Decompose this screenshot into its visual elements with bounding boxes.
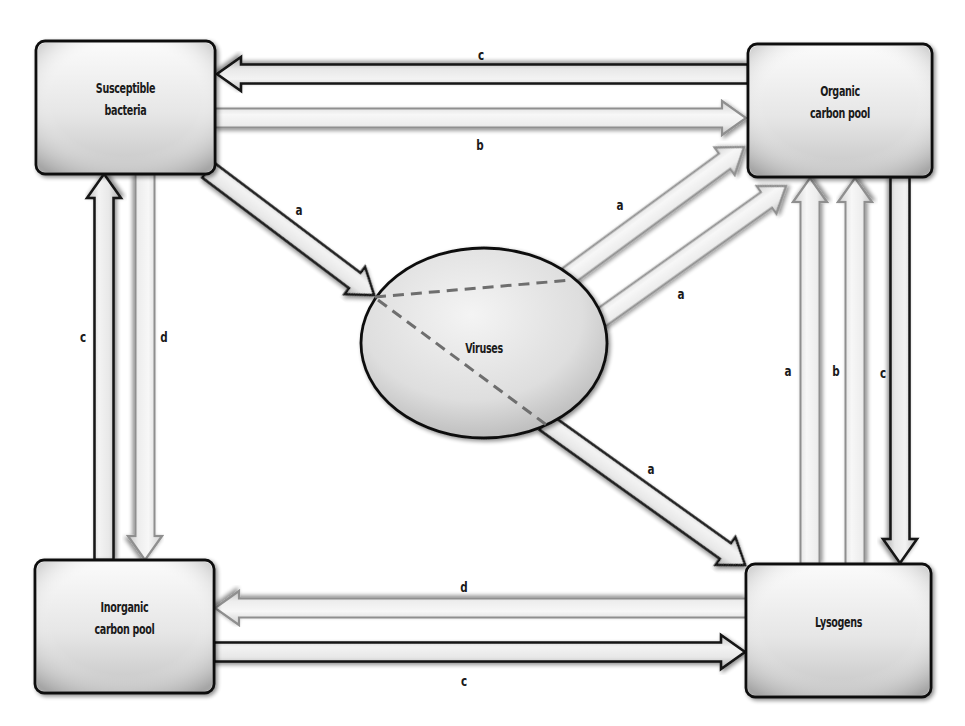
node-label: Lysogens	[815, 614, 863, 631]
node-label: carbon pool	[94, 621, 154, 638]
edge-label-b: b	[832, 362, 839, 379]
node-label: Organic	[820, 83, 860, 100]
edge-label-c: c	[80, 328, 86, 345]
node-label: carbon pool	[810, 105, 870, 122]
node-viruses: Viruses	[361, 248, 607, 438]
edge-label-b: b	[476, 136, 483, 153]
node-label: Viruses	[465, 339, 503, 356]
node-lysogens: Lysogens	[746, 564, 931, 697]
edge-label-a: a	[295, 201, 302, 218]
edge-label-a: a	[677, 285, 684, 302]
edge-label-a: a	[616, 196, 623, 213]
edge-label-c: c	[880, 364, 886, 381]
edge-label-d: d	[460, 578, 467, 595]
node-susceptible-bacteria: Susceptiblebacteria	[36, 41, 215, 174]
edge-label-a: a	[784, 362, 791, 379]
node-organic-carbon-pool: Organiccarbon pool	[748, 44, 932, 177]
node-label: bacteria	[105, 102, 147, 119]
edge-label-c: c	[478, 46, 484, 63]
carbon-flow-diagram: SusceptiblebacteriaOrganiccarbon poolIno…	[0, 0, 965, 726]
edge-label-c: c	[461, 672, 467, 689]
node-label: Inorganic	[101, 599, 149, 616]
edge-label-d: d	[160, 328, 167, 345]
node-inorganic-carbon-pool: Inorganiccarbon pool	[35, 560, 214, 693]
node-label: Susceptible	[96, 80, 156, 97]
edge-label-a: a	[647, 460, 654, 477]
